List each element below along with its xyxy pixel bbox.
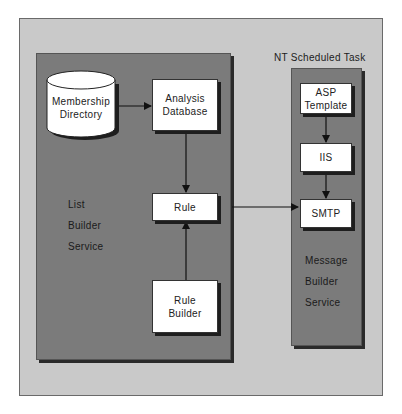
node-label: Rule [174, 201, 196, 214]
node-iis: IIS [300, 143, 352, 172]
node-rule-builder: Rule Builder [152, 280, 218, 333]
node-label: ASP [316, 86, 337, 99]
node-rule: Rule [152, 193, 218, 221]
node-label: Membership [52, 95, 110, 108]
node-label: Analysis [165, 92, 205, 105]
node-smtp: SMTP [300, 199, 352, 228]
node-analysis-database: Analysis Database [152, 79, 218, 131]
node-asp-template: ASP Template [300, 83, 352, 114]
node-label: Database [162, 105, 207, 118]
node-membership-directory: Membership Directory [47, 93, 115, 123]
node-label: Template [305, 99, 348, 112]
node-label: IIS [319, 151, 332, 164]
node-label: Directory [60, 108, 103, 121]
node-label: Rule [174, 294, 196, 307]
node-label: Builder [168, 307, 201, 320]
node-label: SMTP [312, 207, 341, 220]
